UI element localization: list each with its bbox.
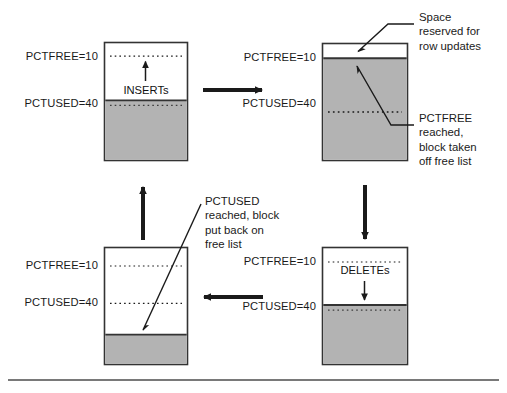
block-pctused-reached-used-region [105, 335, 186, 364]
block-inserts-pctused-label: PCTUSED=40 [8, 97, 98, 109]
block-pctused-reached [105, 248, 188, 365]
callout-pctused-reached: PCTUSED reached, block put back on free … [205, 194, 279, 252]
block-deletes-pctfree-label: PCTFREE=10 [226, 255, 316, 267]
block-inserts [105, 43, 188, 161]
block-space-management-diagram: PCTFREE=10 PCTUSED=40 INSERTs PCTFREE=10… [0, 0, 507, 393]
callout-space-reserved: Space reserved for row updates [419, 10, 481, 53]
block-pctfree-reached-pctused-label: PCTUSED=40 [226, 97, 316, 109]
block-deletes-pctused-label: PCTUSED=40 [226, 300, 316, 312]
block-inserts-pctfree-label: PCTFREE=10 [8, 50, 98, 62]
block-pctused-reached-pctused-label: PCTUSED=40 [8, 296, 98, 308]
block-deletes-used-region [323, 305, 406, 363]
block-pctfree-reached-used-region [323, 59, 406, 160]
block-pctfree-reached [323, 44, 408, 161]
block-deletes-operation-label: DELETEs [337, 264, 393, 276]
block-pctused-reached-pctfree-label: PCTFREE=10 [8, 259, 98, 271]
block-inserts-operation-label: INSERTs [118, 84, 174, 96]
block-inserts-used-region [105, 101, 186, 160]
block-pctfree-reached-pctfree-label: PCTFREE=10 [226, 51, 316, 63]
callout-pctfree-reached: PCTFREE reached, block taken off free li… [419, 111, 477, 169]
